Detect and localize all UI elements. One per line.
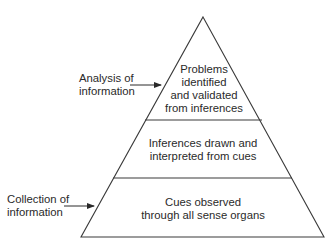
annotation-analysis: Analysis of information [79, 72, 135, 98]
annotation-analysis-line-2: information [79, 85, 135, 98]
pyramid-level-bottom: Cues observed through all sense organs [141, 196, 265, 222]
level-bottom-line-2: through all sense organs [141, 209, 265, 222]
level-top-line-2: identified [165, 76, 243, 89]
annotation-collection-line-2: information [7, 206, 69, 219]
pyramid-level-middle: Inferences drawn and interpreted from cu… [149, 137, 258, 163]
level-top-line-1: Problems [165, 63, 243, 76]
annotation-collection-line-1: Collection of [7, 193, 69, 206]
level-middle-line-1: Inferences drawn and [149, 137, 258, 150]
pyramid-level-top: Problems identified and validated from i… [165, 63, 243, 115]
annotation-collection: Collection of information [7, 193, 69, 219]
annotation-analysis-line-1: Analysis of [79, 72, 135, 85]
level-bottom-line-1: Cues observed [141, 196, 265, 209]
level-top-line-4: from inferences [165, 102, 243, 115]
level-middle-line-2: interpreted from cues [149, 150, 258, 163]
level-top-line-3: and validated [165, 89, 243, 102]
